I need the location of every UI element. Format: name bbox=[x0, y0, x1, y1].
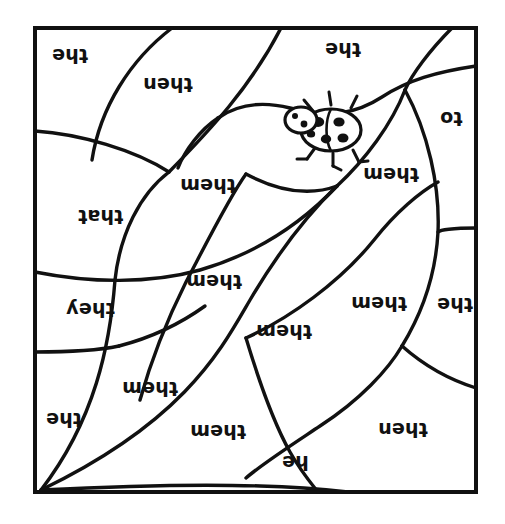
region-word-them-6: them bbox=[122, 379, 178, 398]
region-word-then-2: then bbox=[378, 420, 428, 439]
region-word-the-3: the bbox=[437, 295, 473, 314]
region-word-the-2: the bbox=[325, 40, 361, 59]
region-word-then-1: then bbox=[143, 75, 193, 94]
region-word-that: that bbox=[78, 207, 123, 226]
region-word-them-7: them bbox=[190, 422, 246, 441]
coloring-worksheet: the then the to them them that them they… bbox=[0, 0, 505, 524]
region-word-them-4: them bbox=[351, 294, 407, 313]
region-word-them-3: them bbox=[186, 272, 242, 291]
region-word-the-4: the bbox=[46, 410, 82, 429]
region-word-he: he bbox=[282, 453, 309, 472]
region-word-they: they bbox=[66, 300, 115, 319]
region-word-them-1: them bbox=[180, 176, 236, 195]
region-word-to: to bbox=[440, 109, 463, 128]
worksheet-line-art bbox=[0, 0, 505, 524]
region-word-the-1: the bbox=[52, 46, 88, 65]
region-word-them-5: them bbox=[256, 322, 312, 341]
region-word-them-2: them bbox=[363, 165, 419, 184]
ladybug-head bbox=[285, 107, 317, 133]
